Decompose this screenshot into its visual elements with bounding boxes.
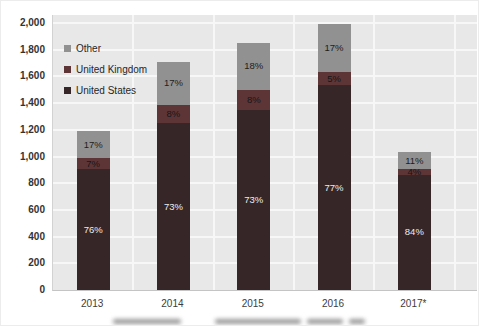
y-tick-label: 600 (1, 204, 45, 216)
bar-segment-label: 77% (318, 182, 351, 194)
legend-item: Other (64, 38, 147, 59)
blur-fragment (349, 319, 365, 324)
x-tick-label: 2016 (308, 298, 358, 310)
x-tick-label: 2017* (388, 298, 438, 310)
x-tick-label: 2014 (147, 298, 197, 310)
bar-segment-label: 73% (157, 201, 190, 213)
x-gridline (213, 15, 215, 290)
legend-item: United States (64, 80, 147, 101)
cropped-caption-blur (1, 317, 479, 326)
bar-segment-label: 8% (157, 108, 190, 120)
legend-color-swatch (64, 45, 71, 52)
blur-fragment (113, 319, 181, 324)
y-tick-label: 2,000 (1, 17, 45, 29)
y-tick-label: 1,800 (1, 44, 45, 56)
y-tick-label: 800 (1, 177, 45, 189)
legend-item: United Kingdom (64, 59, 147, 80)
bar-segment-label: 7% (77, 158, 110, 170)
stacked-bar-chart: 76%7%17%73%8%17%73%8%18%77%5%17%84%4%11%… (0, 0, 479, 326)
bar-segment-label: 17% (77, 139, 110, 151)
y-tick-label: 1,400 (1, 97, 45, 109)
x-tick-label: 2015 (228, 298, 278, 310)
y-gridline (53, 22, 477, 24)
bar-segment-label: 5% (318, 73, 351, 85)
y-tick-label: 400 (1, 231, 45, 243)
legend-color-swatch (64, 66, 71, 73)
legend-item-label: United Kingdom (76, 64, 147, 75)
x-tick-label: 2013 (67, 298, 117, 310)
legend-item-label: United States (76, 85, 136, 96)
x-gridline (454, 15, 456, 290)
bar-segment-label: 11% (398, 155, 431, 167)
bar-segment-label: 76% (77, 224, 110, 236)
bar-segment-label: 73% (237, 194, 270, 206)
y-tick-label: 1,200 (1, 124, 45, 136)
y-tick-label: 0 (1, 284, 45, 296)
blur-fragment (307, 319, 343, 324)
y-tick-label: 1,000 (1, 151, 45, 163)
bar-segment-label: 17% (157, 77, 190, 89)
bar-segment-label: 84% (398, 226, 431, 238)
y-tick-label: 1,600 (1, 70, 45, 82)
legend: OtherUnited KingdomUnited States (64, 38, 147, 101)
y-tick-label: 200 (1, 257, 45, 269)
bar-segment-label: 17% (318, 42, 351, 54)
blur-fragment (215, 319, 301, 324)
legend-color-swatch (64, 87, 71, 94)
legend-item-label: Other (76, 43, 101, 54)
x-gridline (373, 15, 375, 290)
bar-segment-label: 18% (237, 60, 270, 72)
x-gridline (293, 15, 295, 290)
bar-segment-label: 8% (237, 94, 270, 106)
